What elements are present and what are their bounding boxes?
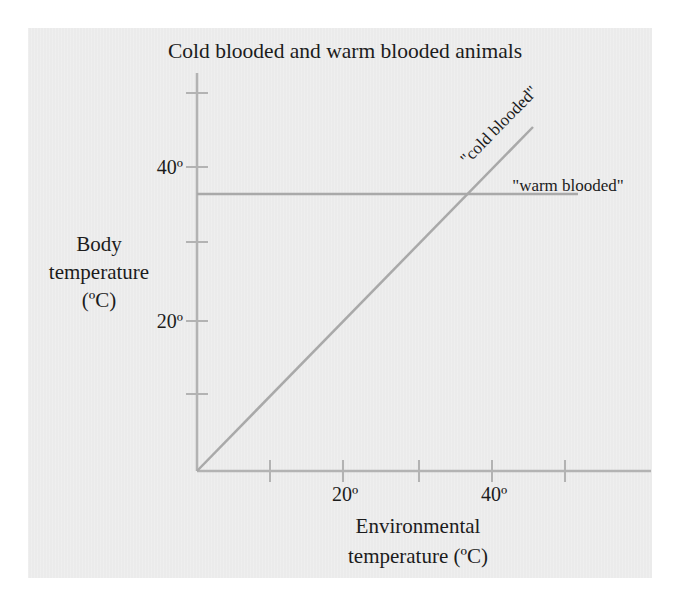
y-tick-label-20: 20º bbox=[157, 310, 183, 332]
y-axis-label-line-1: Body bbox=[76, 232, 122, 256]
x-axis-label-line-2: temperature (ºC) bbox=[348, 544, 488, 568]
y-axis-label: Body temperature (ºC) bbox=[49, 232, 149, 312]
x-axis-label: Environmental temperature (ºC) bbox=[348, 514, 488, 568]
x-tick-label-20: 20º bbox=[332, 483, 358, 505]
y-tick-label-40: 40º bbox=[157, 156, 183, 178]
x-axis-label-line-1: Environmental bbox=[356, 514, 481, 538]
y-axis-label-line-3: (ºC) bbox=[82, 288, 117, 312]
chart-title: Cold blooded and warm blooded animals bbox=[168, 39, 522, 63]
series-warm-blooded-label: "warm blooded" bbox=[512, 176, 624, 195]
x-tick-label-40: 40º bbox=[481, 483, 507, 505]
series-cold-blooded-label: "cold blooded" bbox=[457, 82, 542, 168]
y-axis-label-line-2: temperature bbox=[49, 260, 149, 284]
series-cold-blooded-line bbox=[197, 127, 533, 471]
chart: Cold blooded and warm blooded animals 20… bbox=[0, 0, 673, 593]
